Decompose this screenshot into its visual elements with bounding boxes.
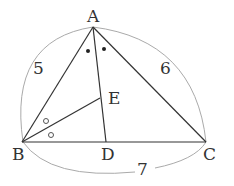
label-d: D — [101, 146, 115, 163]
angle-dot-icon — [102, 47, 106, 51]
label-a: A — [87, 8, 99, 25]
label-c: C — [203, 146, 216, 163]
label-e: E — [108, 90, 120, 107]
length-ab: 5 — [33, 60, 44, 77]
length-bc: 7 — [137, 161, 148, 178]
segment-be — [22, 98, 100, 142]
angle-circle-icon — [44, 119, 49, 124]
label-b: B — [12, 146, 25, 163]
segment-ab — [22, 27, 93, 142]
length-ac: 6 — [160, 60, 171, 77]
angle-circle-icon — [49, 133, 54, 138]
angle-dot-icon — [86, 49, 90, 53]
segment-ad — [93, 27, 106, 142]
